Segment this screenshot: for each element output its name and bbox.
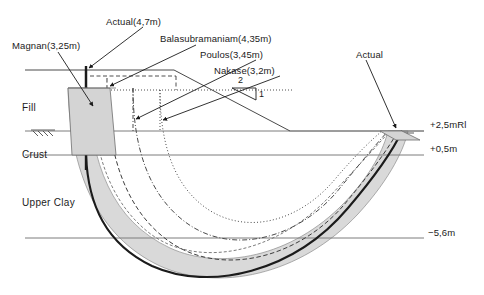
excavation-band-group bbox=[68, 88, 408, 278]
callout-label-actual-top: Actual(4,7m) bbox=[106, 17, 161, 27]
leader-actual-right bbox=[366, 60, 396, 128]
top-surface-solid bbox=[86, 70, 290, 131]
top-surface-lines-group bbox=[86, 70, 424, 131]
elevation-label-minus-5_6m: −5,6m bbox=[428, 228, 455, 238]
prediction-traces-group bbox=[90, 76, 292, 131]
curve-balasubramaniam bbox=[107, 78, 398, 260]
callout-label-balasubramaniam: Balasubramaniam(4,35m) bbox=[160, 34, 272, 44]
callout-label-poulos: Poulos(3,45m) bbox=[200, 50, 263, 60]
slope-rise-label: 1 bbox=[259, 90, 264, 99]
fill-wedge-group bbox=[68, 88, 116, 155]
elevation-label-0_5m: +0,5m bbox=[430, 144, 457, 154]
elevation-label-2_5m-rl: +2,5mRl bbox=[430, 120, 466, 130]
callout-label-magnan: Magnan(3,25m) bbox=[12, 41, 80, 51]
fill-wedge bbox=[68, 88, 116, 155]
soil-layer-label-upper-clay: Upper Clay bbox=[22, 198, 75, 208]
excavation-band-fill bbox=[68, 88, 408, 278]
figure-root: Magnan(3,25m) Actual(4,7m) Balasubramani… bbox=[0, 0, 484, 295]
slope-run-label: 2 bbox=[238, 76, 243, 85]
callout-label-nakase: Nakase(3,2m) bbox=[214, 66, 275, 76]
leader-balasubramaniam bbox=[110, 45, 196, 86]
leader-actual-top bbox=[89, 27, 143, 68]
soil-layer-label-crust: Crust bbox=[22, 150, 47, 160]
soil-layer-label-fill: Fill bbox=[22, 103, 36, 113]
callout-label-actual-right: Actual bbox=[356, 50, 383, 60]
